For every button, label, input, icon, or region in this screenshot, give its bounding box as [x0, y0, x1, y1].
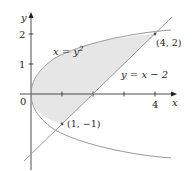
point-1-neg1 — [61, 123, 64, 126]
region-diagram: y x 0 2 1 4 x = y2 y = x − 2 (4, 2) (1, … — [0, 0, 192, 171]
point-label-1-neg1: (1, −1) — [67, 118, 101, 129]
origin-label: 0 — [20, 96, 26, 107]
line-label: y = x − 2 — [120, 69, 168, 80]
y-axis-arrow-icon — [29, 12, 34, 18]
x-axis-arrow-icon — [171, 92, 177, 97]
y-axis-label: y — [20, 12, 27, 23]
point-4-2 — [154, 33, 157, 36]
point-label-4-2: (4, 2) — [156, 37, 182, 48]
y-tick-label-1: 1 — [19, 59, 25, 70]
x-axis-label: x — [172, 97, 178, 108]
y-tick-label-2: 2 — [19, 29, 25, 40]
x-tick-label-4: 4 — [152, 99, 158, 110]
